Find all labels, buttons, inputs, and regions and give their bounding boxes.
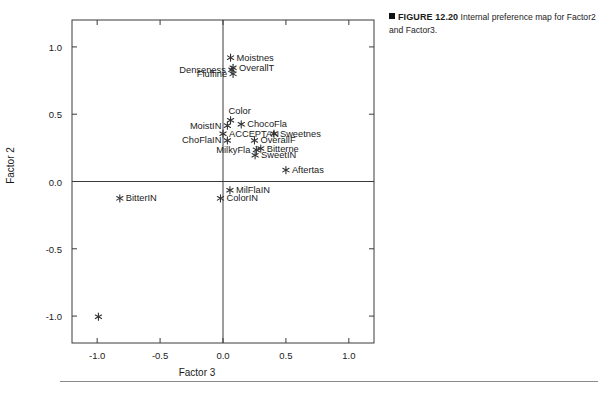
point-label-Moistnes: Moistnes — [237, 53, 274, 63]
data-point-ChocoFla — [238, 121, 244, 128]
x-tick-label: 0.5 — [279, 350, 292, 361]
y-tick-label: -1.0 — [30, 311, 62, 322]
data-point-unlabeled-18 — [95, 313, 101, 320]
point-label-Fluffine: Fluffine — [197, 69, 227, 79]
point-label-SweetIN: SweetIN — [261, 150, 296, 160]
y-tick-label: 0.0 — [30, 176, 62, 187]
point-label-Aftertas: Aftertas — [292, 165, 324, 175]
y-tick-label: 1.0 — [30, 41, 62, 52]
data-point-BitterIN — [117, 195, 123, 202]
point-label-MilkyFla: MilkyFla — [216, 145, 250, 155]
x-tick-label: -0.5 — [152, 350, 168, 361]
data-point-SweetIN — [252, 152, 258, 159]
x-tick-label: 0.0 — [216, 350, 229, 361]
y-tick-label: 0.5 — [30, 109, 62, 120]
point-label-Color: Color — [229, 106, 251, 116]
point-label-MoistIN: MoistIN — [190, 121, 222, 131]
data-point-Aftertas — [283, 166, 289, 173]
x-axis-title: Factor 3 — [179, 367, 216, 378]
y-tick-label: -0.5 — [30, 243, 62, 254]
point-label-OverallT: OverallT — [239, 63, 274, 73]
scatter-plot: Factor 2 Factor 3 1.00.50.0-0.5-1.0-1.0-… — [0, 0, 389, 370]
footer-rule — [60, 381, 598, 382]
point-label-ColorIN: ColorIN — [226, 193, 258, 203]
caption-bullet-icon — [389, 13, 395, 19]
figure-caption: FIGURE 12.20 Internal preference map for… — [389, 11, 601, 37]
data-point-Color — [227, 117, 233, 124]
figure-number: FIGURE 12.20 — [398, 12, 458, 22]
data-point-Moistnes — [227, 54, 233, 61]
point-label-BitterIN: BitterIN — [126, 193, 157, 203]
x-tick-label: -1.0 — [89, 350, 105, 361]
x-tick-label: 1.0 — [342, 350, 355, 361]
y-axis-title: Factor 2 — [5, 147, 16, 184]
